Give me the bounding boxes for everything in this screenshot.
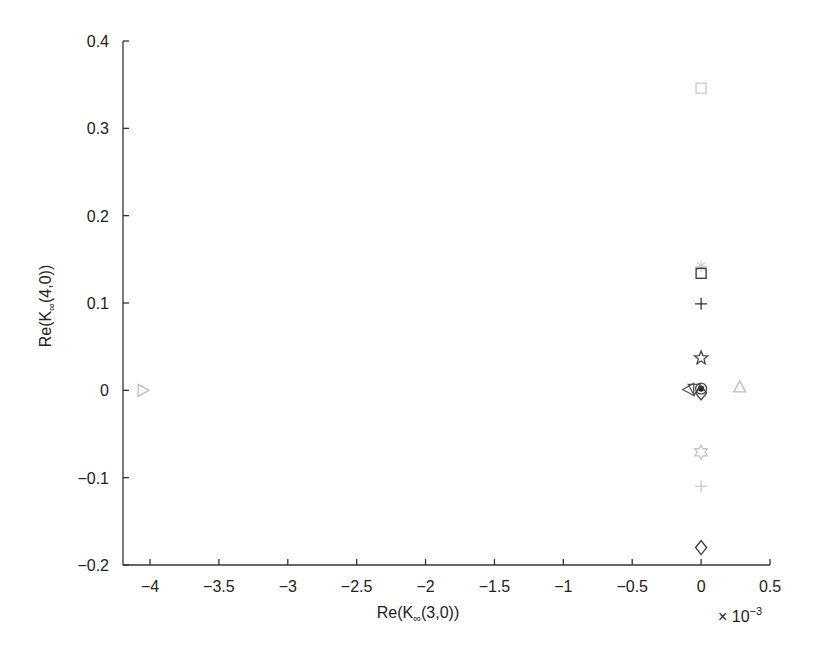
triangle-right-marker	[138, 384, 149, 396]
data-points	[138, 83, 746, 554]
y-tick-label: 0.3	[87, 120, 109, 137]
x-tick-label: −2	[416, 578, 434, 595]
x-tick-label: −2.5	[341, 578, 373, 595]
x-tick-label: −1.5	[479, 578, 511, 595]
x-axis-multiplier: × 10−3	[718, 605, 762, 625]
y-tick-label: 0	[100, 382, 109, 399]
square-marker	[696, 83, 706, 93]
x-tick-label: −3	[279, 578, 297, 595]
x-tick-label: −4	[141, 578, 159, 595]
x-tick-label: 0.5	[759, 578, 781, 595]
x-axis-label: Re(K∞(3,0))	[377, 604, 460, 624]
scatter-chart: 0.40.30.20.10−0.1−0.2−4−3.5−3−2.5−2−1.5−…	[0, 0, 822, 666]
x-tick-label: −1	[554, 578, 572, 595]
y-tick-label: −0.2	[77, 557, 109, 574]
axes	[123, 41, 770, 565]
plus-marker	[695, 298, 707, 310]
x-tick-label: −3.5	[203, 578, 235, 595]
pentagram-marker	[695, 351, 708, 364]
plus-marker	[695, 480, 707, 492]
y-axis-label: Re(K∞(4,0))	[37, 265, 57, 348]
y-tick-label: 0.1	[87, 295, 109, 312]
x-tick-label: −0.5	[616, 578, 648, 595]
x-tick-label: 0	[697, 578, 706, 595]
diamond-marker	[696, 541, 707, 555]
y-tick-label: −0.1	[77, 470, 109, 487]
tick-marks: 0.40.30.20.10−0.1−0.2−4−3.5−3−2.5−2−1.5−…	[77, 33, 781, 595]
triangle-up-marker	[734, 381, 746, 392]
asterisk-marker	[695, 260, 707, 272]
y-tick-label: 0.4	[87, 33, 109, 50]
y-tick-label: 0.2	[87, 208, 109, 225]
hexagram-marker	[695, 445, 707, 459]
